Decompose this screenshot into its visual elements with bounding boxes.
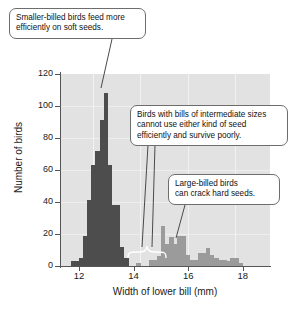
callout-large-billed-line-2: can crack hard seeds. — [175, 189, 274, 199]
callout-leader-lines — [0, 0, 298, 311]
callout-small-billed: Smaller-billed birds feed more efficient… — [9, 8, 146, 39]
callout-large-billed-line-1: Large-billed birds — [175, 179, 274, 189]
callout-large-billed: Large-billed birds can crack hard seeds. — [168, 174, 280, 205]
leader-line-intermediate — [142, 145, 148, 247]
callout-intermediate: Birds with bills of intermediate sizes c… — [130, 105, 288, 146]
callout-small-billed-line-1: Smaller-billed birds feed more — [16, 13, 140, 23]
callout-intermediate-line-2: cannot use either kind of seed — [137, 120, 282, 130]
leader-line-intermediate — [152, 145, 155, 247]
leader-line-large-billed — [176, 205, 185, 238]
leader-line-small-billed — [101, 39, 112, 88]
callout-intermediate-line-1: Birds with bills of intermediate sizes — [137, 110, 282, 120]
callout-small-billed-line-2: efficiently on soft seeds. — [16, 23, 140, 33]
callout-intermediate-line-3: efficiently and survive poorly. — [137, 131, 282, 141]
bill-width-histogram-figure: 020406080100120 12141618 Width of lower … — [0, 0, 298, 311]
